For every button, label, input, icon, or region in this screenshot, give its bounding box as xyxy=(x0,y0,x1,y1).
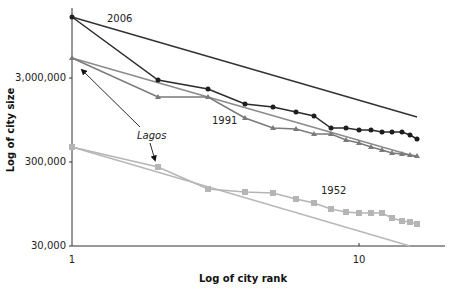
y-axis-label: Log of city size xyxy=(5,87,16,172)
y-tick-label: 30,000 xyxy=(31,240,66,251)
series-1952-markers xyxy=(69,144,420,227)
zipf-chart: 3,000,000 300,000 30,000 1 10 Log of cit… xyxy=(0,0,452,296)
label-2006: 2006 xyxy=(107,13,132,24)
lagos-arrow-1991 xyxy=(82,70,140,127)
x-axis-label: Log of city rank xyxy=(199,273,288,284)
label-lagos: Lagos xyxy=(137,130,166,141)
lagos-arrow-1952 xyxy=(150,143,155,160)
y-tick-label: 3,000,000 xyxy=(15,72,66,83)
fit-line-1952 xyxy=(72,147,410,246)
label-1952: 1952 xyxy=(321,185,346,196)
x-tick-label: 10 xyxy=(353,254,366,265)
y-tick-label: 300,000 xyxy=(25,156,66,167)
label-1991: 1991 xyxy=(212,115,237,126)
series-2006-line xyxy=(72,17,417,139)
series-1952-line xyxy=(72,147,417,224)
x-tick-label: 1 xyxy=(69,254,75,265)
series-2006-markers xyxy=(70,15,420,142)
fit-line-1991 xyxy=(72,58,417,157)
